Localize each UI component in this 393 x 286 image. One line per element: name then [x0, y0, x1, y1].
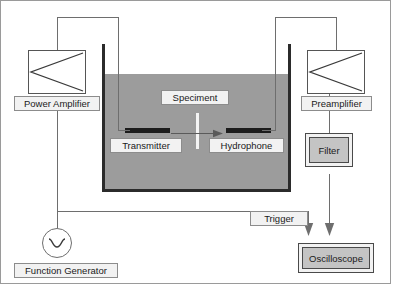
tank-wall-left [102, 44, 105, 192]
wire-preamp-top [336, 17, 337, 50]
hydrophone-label: Hydrophone [209, 138, 284, 153]
oscilloscope-label: Oscilloscope [302, 247, 370, 269]
wire-fg-to-power-amp [57, 100, 58, 228]
function-generator-label: Function Generator [14, 263, 118, 278]
wire-down-to-transmitter [118, 17, 119, 130]
wire-up-from-hydrophone [275, 17, 276, 130]
preamplifier-symbol [307, 50, 365, 94]
transmitter-element [125, 128, 170, 133]
preamplifier-label: Preamplifier [301, 96, 372, 111]
filter-device: Filter [305, 133, 353, 167]
wire-filter-to-oscilloscope [323, 174, 336, 240]
wire-power-amp-top [57, 17, 58, 50]
wire-to-transmitter [118, 130, 130, 131]
wire-from-hydrophone [262, 130, 276, 131]
wire-top-left-run [57, 17, 119, 18]
filter-label: Filter [309, 137, 349, 163]
tank-wall-right [288, 44, 291, 192]
power-amplifier-label: Power Amplifier [14, 96, 100, 111]
tank-wall-bottom [102, 189, 291, 192]
wire-top-right-run [275, 17, 337, 18]
oscilloscope-device: Oscilloscope [298, 243, 374, 273]
power-amplifier-symbol [28, 50, 86, 94]
trigger-label: Trigger [250, 211, 308, 226]
specimen-label: Speciment [161, 90, 229, 105]
block-diagram: Power Amplifier Preamplifier Function Ge… [0, 0, 393, 286]
transmitter-label: Transmitter [110, 138, 182, 153]
function-generator-symbol [42, 228, 72, 258]
